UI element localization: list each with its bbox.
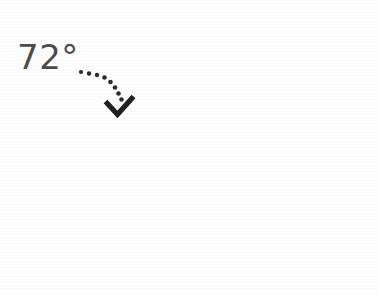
- angle-annotation-label: 72°: [17, 40, 79, 74]
- pie-chart-figure: 72°: [0, 0, 378, 295]
